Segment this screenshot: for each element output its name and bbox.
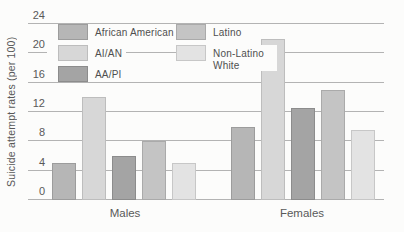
x-axis-category-label: Males <box>110 207 141 219</box>
legend-column-1: African AmericanAI/ANAA/PI <box>47 24 178 82</box>
legend-swatch-african-american <box>58 24 88 40</box>
legend-label: Non-Latino White <box>213 45 273 71</box>
y-axis-tick-label: 8 <box>28 126 45 138</box>
y-axis-tick-label: 24 <box>28 9 45 21</box>
gridline-y-16 <box>28 82 384 83</box>
y-axis-tick-label: 4 <box>28 156 45 168</box>
legend-label: AA/PI <box>95 66 122 81</box>
bar-females-african-american <box>231 127 255 200</box>
bar-females-aa-pi <box>291 108 315 200</box>
legend-item: African American <box>47 24 178 40</box>
legend-swatch-latino <box>176 24 206 40</box>
bar-chart-figure: Suicide attempt rates (per 100) 04812162… <box>0 0 404 232</box>
y-axis-tick-label: 20 <box>28 38 45 50</box>
legend-item: AA/PI <box>47 66 126 82</box>
legend-label: AI/AN <box>95 45 122 60</box>
y-axis-tick-label: 0 <box>28 185 45 197</box>
y-axis-tick-label: 12 <box>28 97 45 109</box>
legend-item: Non-Latino White <box>176 45 277 71</box>
legend-item: AI/AN <box>47 45 126 61</box>
bar-females-latino <box>321 90 345 200</box>
bar-males-ai-an <box>82 97 106 200</box>
bar-males-african-american <box>52 163 76 200</box>
legend-item: Latino <box>176 24 245 40</box>
legend-swatch-aa-pi <box>58 66 88 82</box>
legend-swatch-non-latino-white <box>176 45 206 61</box>
bar-females-non-latino-white <box>351 130 375 200</box>
bar-males-non-latino-white <box>172 163 196 200</box>
legend-column-2: LatinoNon-Latino White <box>176 24 277 71</box>
bar-males-aa-pi <box>112 156 136 200</box>
legend-swatch-ai-an <box>58 45 88 61</box>
bar-males-latino <box>142 141 166 200</box>
x-axis-category-label: Females <box>280 207 324 219</box>
y-axis-title: Suicide attempt rates (per 100) <box>4 23 18 200</box>
legend-label: Latino <box>213 24 241 39</box>
legend-label: African American <box>95 24 174 39</box>
y-axis-tick-label: 16 <box>28 68 45 80</box>
